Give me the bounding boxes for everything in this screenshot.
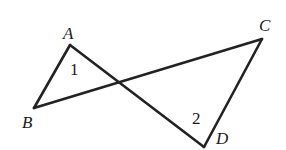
point-label-b: B (22, 113, 33, 132)
geometry-figure: A B C D 1 2 (0, 0, 286, 150)
angle-label-2: 2 (192, 109, 201, 128)
point-label-d: D (215, 129, 229, 148)
segment-da (70, 45, 204, 147)
point-label-a: A (62, 24, 74, 43)
angle-label-1: 1 (70, 60, 79, 79)
point-label-c: C (259, 16, 271, 35)
